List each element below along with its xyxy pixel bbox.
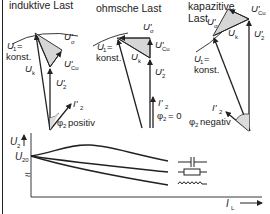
ucu-sub: Cu [162, 46, 170, 52]
uk-label: U [228, 27, 235, 38]
panel-inductive: induktive Last U 1 = konst. U' σ U' Cu U… [6, 0, 95, 130]
panel-ohmic: ohmsche Last U' σ U' Cu U 1 = konst. U k… [93, 2, 181, 128]
uk-label: U [131, 51, 138, 62]
konst-label: konst. [96, 52, 121, 63]
ucu-sub: Cu [71, 65, 79, 71]
konst-label: konst. [194, 64, 219, 75]
panel-title-line2: Last [188, 12, 208, 24]
usigma-sub: σ [150, 28, 154, 34]
u2-sub: 2 [162, 73, 166, 79]
inductor-icon [178, 182, 207, 184]
u2-sub: 2 [261, 35, 265, 41]
konst-label: konst. [6, 51, 31, 62]
y-label-sub: 2 [17, 143, 21, 149]
u20-sub: 20 [22, 157, 29, 163]
axis-break-icon: ≈ [25, 169, 31, 180]
i2-sub: 2 [219, 109, 223, 115]
i2-sub: 2 [80, 105, 84, 111]
phi-text: = 0 [168, 110, 181, 121]
uk-sub: k [32, 70, 36, 76]
u1-eq: = [17, 40, 23, 51]
uk-sub: k [235, 34, 239, 40]
phi-sub: 2 [195, 122, 199, 128]
i2-label: I' [73, 98, 79, 109]
phi-text: negativ [200, 116, 231, 127]
phi-sub: 2 [163, 116, 167, 122]
curve-resistive [31, 156, 168, 172]
transformer-phasor-diagram: induktive Last U 1 = konst. U' σ U' Cu U… [0, 0, 270, 214]
resistor-icon [178, 169, 207, 175]
u1-eq: = [107, 41, 113, 52]
i2-label: I' [212, 102, 218, 113]
usigma-sub: σ [71, 39, 75, 45]
usigma-sub: σ [214, 23, 218, 29]
u2-sub: 2 [63, 84, 67, 90]
x-label-sub: L [231, 205, 235, 211]
voltage-triangle [35, 33, 62, 67]
phi-sub: 2 [63, 123, 67, 129]
u1-eq: = [204, 53, 210, 64]
x-label: I [226, 198, 229, 209]
u1-phasor [118, 40, 142, 128]
i2-label: I' [158, 97, 164, 108]
uk-label: U [25, 63, 32, 74]
panel-capacitive: kapazitive Last U' Cu U' σ U k U' 2 U 1 … [188, 0, 266, 131]
panel-title: induktive Last [9, 0, 73, 11]
uk-sub: k [138, 58, 142, 64]
load-characteristic-chart: U 2 U 20 ≈ I L [10, 133, 262, 211]
ucu-sub: Cu [258, 10, 266, 16]
panel-title: ohmsche Last [96, 2, 161, 14]
capacitor-icon [178, 157, 207, 167]
phi-text: positiv [68, 117, 95, 128]
